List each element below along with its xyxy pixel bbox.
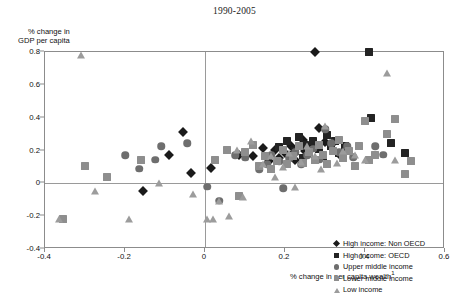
data-point xyxy=(323,160,331,168)
data-point xyxy=(349,153,357,161)
data-point xyxy=(279,163,287,170)
data-point xyxy=(231,152,239,160)
data-point xyxy=(310,47,320,57)
data-point xyxy=(234,150,244,160)
data-point xyxy=(407,157,415,165)
data-point xyxy=(189,191,197,198)
data-point xyxy=(365,156,373,164)
data-point xyxy=(275,157,283,165)
data-point xyxy=(239,194,247,201)
legend-item-4[interactable]: Low income xyxy=(331,284,469,294)
data-point xyxy=(273,157,281,165)
data-point xyxy=(264,156,274,166)
data-point xyxy=(270,145,280,155)
data-point xyxy=(283,137,291,145)
data-point xyxy=(301,141,309,149)
data-point xyxy=(361,117,369,125)
data-point xyxy=(233,146,241,153)
data-point xyxy=(315,145,323,153)
data-point xyxy=(125,215,133,222)
data-point xyxy=(367,114,375,122)
data-point xyxy=(297,158,305,165)
data-point xyxy=(383,130,391,138)
data-point xyxy=(327,139,335,147)
x-tick-mark xyxy=(44,248,45,252)
data-point xyxy=(343,143,351,151)
data-point xyxy=(285,155,293,163)
data-point xyxy=(309,137,317,145)
data-point xyxy=(255,162,263,170)
data-point xyxy=(331,137,339,145)
data-point xyxy=(355,142,363,150)
data-point xyxy=(267,165,275,173)
data-point xyxy=(261,152,269,160)
chart-title: 1990-2005 xyxy=(0,6,469,16)
x-tick-mark xyxy=(284,248,285,252)
data-point xyxy=(249,141,257,149)
data-point xyxy=(319,152,327,160)
data-point xyxy=(339,148,347,155)
data-point xyxy=(299,159,307,167)
data-point xyxy=(259,161,267,168)
data-point xyxy=(186,168,196,178)
legend-label: Low income xyxy=(342,284,382,294)
data-point xyxy=(274,153,284,163)
data-point xyxy=(157,143,165,151)
data-point xyxy=(315,141,323,149)
data-point xyxy=(255,166,263,174)
data-point xyxy=(345,147,353,155)
legend-item-1[interactable]: High income: OECD xyxy=(331,250,469,262)
y-axis-label-line2: GDP per capita xyxy=(18,36,70,45)
data-point xyxy=(178,127,188,137)
data-point xyxy=(311,153,319,160)
data-point xyxy=(290,155,300,165)
legend-label: High income: OECD xyxy=(342,250,410,262)
diamond-icon xyxy=(333,240,340,247)
data-point xyxy=(121,152,129,160)
data-point xyxy=(299,154,307,162)
data-point xyxy=(391,115,399,123)
data-point xyxy=(371,151,379,159)
data-point xyxy=(334,149,344,159)
data-point xyxy=(138,186,148,196)
data-point xyxy=(401,170,409,178)
data-point xyxy=(241,148,249,156)
data-point xyxy=(365,48,373,56)
data-point xyxy=(338,147,348,157)
data-point xyxy=(300,146,310,156)
data-point xyxy=(77,52,85,59)
x-tick-mark xyxy=(124,248,125,252)
data-point xyxy=(320,137,330,147)
data-point xyxy=(248,151,258,161)
data-point xyxy=(279,146,287,154)
data-point xyxy=(91,187,99,194)
data-point xyxy=(258,143,268,153)
data-point xyxy=(303,152,311,160)
legend-label: High income: Non OECD xyxy=(342,238,425,250)
data-point xyxy=(315,156,323,164)
square-icon xyxy=(334,276,340,282)
y-axis-label-line1: % change in xyxy=(18,27,70,36)
data-point xyxy=(323,131,331,139)
data-point xyxy=(305,148,313,156)
data-point xyxy=(283,160,291,168)
data-point xyxy=(387,139,395,147)
legend-item-0[interactable]: High income: Non OECD xyxy=(331,238,469,250)
data-point xyxy=(267,153,275,160)
data-point xyxy=(137,156,145,164)
data-point xyxy=(311,156,319,164)
data-point xyxy=(287,151,295,159)
legend-item-3[interactable]: Lower middle income xyxy=(331,273,469,285)
data-point xyxy=(151,156,159,164)
legend-item-2[interactable]: Upper middle income xyxy=(331,261,469,273)
x-zero-reference-line xyxy=(205,52,206,247)
data-point xyxy=(339,154,347,162)
legend-marker-triangle-icon xyxy=(331,288,342,293)
data-point xyxy=(319,151,327,159)
data-point xyxy=(215,197,223,204)
data-point xyxy=(247,138,255,145)
data-point xyxy=(326,140,336,150)
data-point xyxy=(303,143,311,150)
data-point xyxy=(55,216,63,223)
data-point xyxy=(371,143,379,151)
